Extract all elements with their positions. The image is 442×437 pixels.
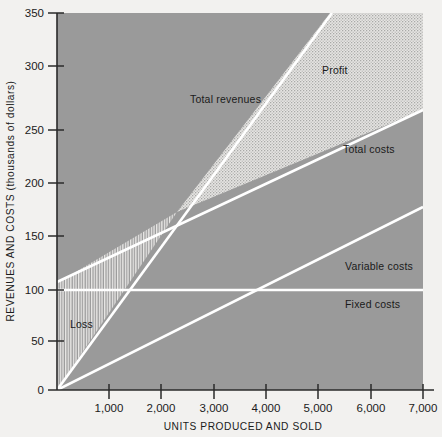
y-tick-label-200: 200 bbox=[25, 177, 44, 189]
break-even-chart: 350 300 250 200 150 100 50 0 1,000 2,000… bbox=[0, 0, 442, 437]
profit-region-label: Profit bbox=[322, 64, 348, 76]
x-tick-label-1000: 1,000 bbox=[95, 402, 124, 414]
y-tick-label-100: 100 bbox=[25, 284, 44, 296]
y-tick-label-300: 300 bbox=[25, 60, 44, 72]
x-axis-title: UNITS PRODUCED AND SOLD bbox=[164, 421, 323, 432]
variable-costs-label: Variable costs bbox=[345, 260, 413, 272]
y-tick-label-250: 250 bbox=[25, 124, 44, 136]
y-tick-label-0: 0 bbox=[38, 384, 44, 396]
x-tick-label-3000: 3,000 bbox=[200, 402, 229, 414]
total-revenues-label: Total revenues bbox=[190, 93, 261, 105]
x-tick-label-7000: 7,000 bbox=[409, 402, 438, 414]
x-tick-label-2000: 2,000 bbox=[147, 402, 176, 414]
loss-region-label: Loss bbox=[70, 318, 93, 330]
total-costs-label: Total costs bbox=[343, 143, 395, 155]
y-tick-label-350: 350 bbox=[25, 7, 44, 19]
x-tick-label-4000: 4,000 bbox=[252, 402, 281, 414]
y-tick-label-50: 50 bbox=[31, 335, 44, 347]
x-tick-label-6000: 6,000 bbox=[357, 402, 386, 414]
chart-canvas: 350 300 250 200 150 100 50 0 1,000 2,000… bbox=[0, 0, 442, 437]
y-axis-title: REVENUES AND COSTS (thousands of dollars… bbox=[5, 80, 16, 321]
y-tick-label-150: 150 bbox=[25, 230, 44, 242]
fixed-costs-label: Fixed costs bbox=[345, 298, 400, 310]
x-tick-label-5000: 5,000 bbox=[304, 402, 333, 414]
